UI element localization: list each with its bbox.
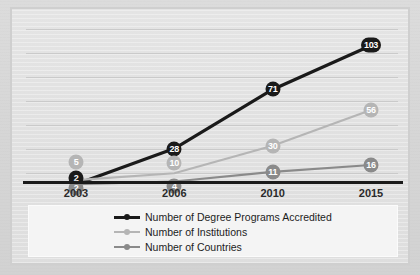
data-label: 56 xyxy=(364,103,379,118)
x-axis-tick-2006: 2006 xyxy=(162,187,186,199)
data-label: 71 xyxy=(265,82,280,97)
data-label: 28 xyxy=(167,141,182,156)
data-label: 5 xyxy=(69,155,84,170)
data-label: 30 xyxy=(265,138,280,153)
legend-item[interactable]: Number of Degree Programs Accredited xyxy=(114,209,332,224)
data-label: 10 xyxy=(167,156,182,171)
legend-label: Number of Institutions xyxy=(145,226,247,238)
figure-root: 228711035103056241116 2003200620102015 N… xyxy=(0,0,420,275)
legend-swatch-icon xyxy=(114,242,140,252)
data-label: 16 xyxy=(364,158,379,173)
legend-label: Number of Degree Programs Accredited xyxy=(145,211,332,223)
x-axis-tick-labels: 2003200620102015 xyxy=(26,187,398,203)
chart-frame: 228711035103056241116 2003200620102015 N… xyxy=(10,7,410,265)
legend: Number of Degree Programs AccreditedNumb… xyxy=(28,205,398,257)
data-label: 103 xyxy=(361,38,381,53)
legend-label: Number of Countries xyxy=(145,241,242,253)
x-axis-line xyxy=(23,181,403,184)
legend-item[interactable]: Number of Institutions xyxy=(114,224,332,239)
legend-item[interactable]: Number of Countries xyxy=(114,239,332,254)
legend-swatch-icon xyxy=(114,212,140,222)
plot-area: 228711035103056241116 xyxy=(26,15,398,183)
x-axis-tick-2003: 2003 xyxy=(64,187,88,199)
series-line xyxy=(76,45,371,184)
data-label: 11 xyxy=(265,164,280,179)
x-axis-tick-2010: 2010 xyxy=(260,187,284,199)
x-axis-tick-2015: 2015 xyxy=(359,187,383,199)
legend-items: Number of Degree Programs AccreditedNumb… xyxy=(114,209,332,254)
legend-swatch-icon xyxy=(114,227,140,237)
